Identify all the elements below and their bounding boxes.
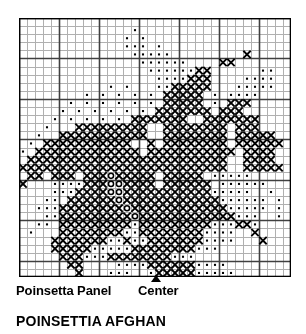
panel-caption: Poinsetta Panel <box>16 283 111 298</box>
chart-grid-canvas <box>19 18 291 277</box>
center-caption: Center <box>138 283 179 298</box>
cross-stitch-chart <box>19 18 291 277</box>
page-title: POINSETTIA AFGHAN <box>16 313 166 329</box>
center-pointer-icon <box>151 275 161 282</box>
caption-row: Poinsetta Panel Center <box>0 283 306 303</box>
